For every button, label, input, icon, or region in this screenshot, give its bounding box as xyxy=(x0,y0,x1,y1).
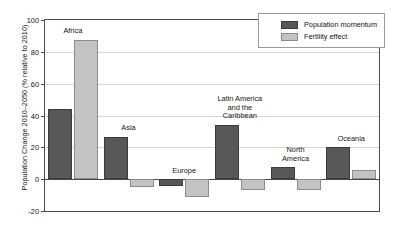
category-label: Oceania xyxy=(291,135,393,144)
category-label-line: Africa xyxy=(13,27,133,36)
y-axis-tick-label: 20 xyxy=(31,143,39,152)
legend-swatch-fertility-effect xyxy=(281,33,298,41)
category-label-line: Oceania xyxy=(291,135,393,144)
bar xyxy=(185,179,209,197)
y-axis-tick-label: 0 xyxy=(35,175,39,184)
y-axis-tick xyxy=(41,52,45,53)
bar xyxy=(297,179,321,189)
y-axis-tick-label: -20 xyxy=(28,207,39,216)
legend-swatch-population-momentum xyxy=(281,21,298,29)
bar xyxy=(48,109,72,179)
y-axis-tick xyxy=(41,84,45,85)
y-axis-tick xyxy=(41,20,45,21)
y-axis-tick-label: 80 xyxy=(31,47,39,56)
bar xyxy=(130,179,154,187)
bar xyxy=(271,167,295,179)
bar xyxy=(241,179,265,190)
bar xyxy=(326,147,350,179)
y-axis-title: Population Change 2010–2050 (% relative … xyxy=(20,8,29,208)
legend-label-fertility-effect: Fertility effect xyxy=(304,32,347,41)
chart-legend: Population momentum Fertility effect xyxy=(258,13,385,48)
bar-chart: Population Change 2010–2050 (% relative … xyxy=(0,0,393,234)
y-axis-tick xyxy=(41,211,45,212)
category-label: Africa xyxy=(13,27,133,36)
bar xyxy=(159,179,183,186)
category-label: Latin Americaand theCaribbean xyxy=(180,95,300,121)
y-axis-tick xyxy=(41,147,45,148)
category-label-line: Caribbean xyxy=(180,112,300,121)
legend-label-population-momentum: Population momentum xyxy=(304,20,377,29)
legend-item-population-momentum: Population momentum xyxy=(281,19,379,30)
y-axis-tick-label: 100 xyxy=(27,16,39,25)
zero-baseline xyxy=(45,179,379,180)
category-label-line: Asia xyxy=(69,124,189,133)
category-label: Asia xyxy=(69,124,189,133)
y-axis-tick xyxy=(41,116,45,117)
y-axis-tick-label: 40 xyxy=(31,111,39,120)
bar xyxy=(74,40,98,179)
legend-item-fertility-effect: Fertility effect xyxy=(281,31,379,42)
y-axis-tick-label: 60 xyxy=(31,79,39,88)
y-axis-tick xyxy=(41,179,45,180)
bar xyxy=(352,170,376,179)
